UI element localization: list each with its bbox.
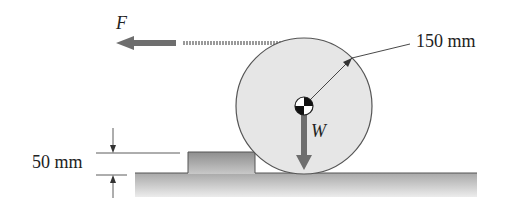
center-of-mass-symbol <box>295 97 313 115</box>
force-label: F <box>116 14 127 32</box>
step <box>188 152 255 174</box>
weight-label: W <box>311 122 326 140</box>
step-height-label: 50 mm <box>32 153 83 171</box>
pull-force-arrow <box>116 36 176 50</box>
ground <box>135 173 477 197</box>
radius-label: 150 mm <box>416 32 476 50</box>
